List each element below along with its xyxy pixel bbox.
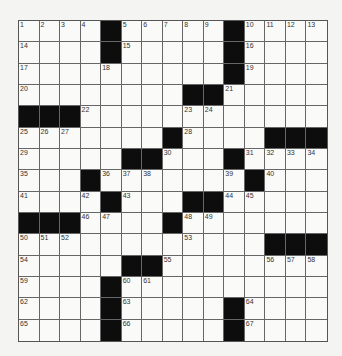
grid-cell[interactable]: 41 bbox=[19, 192, 40, 213]
grid-cell[interactable]: 12 bbox=[286, 21, 307, 42]
grid-cell[interactable] bbox=[245, 213, 266, 234]
grid-cell[interactable]: 21 bbox=[224, 85, 245, 106]
grid-cell[interactable]: 5 bbox=[122, 21, 143, 42]
grid-cell[interactable]: 47 bbox=[101, 213, 122, 234]
grid-cell[interactable] bbox=[183, 320, 204, 341]
grid-cell[interactable] bbox=[245, 256, 266, 277]
grid-cell[interactable]: 43 bbox=[122, 192, 143, 213]
grid-cell[interactable]: 23 bbox=[183, 106, 204, 127]
grid-cell[interactable] bbox=[142, 128, 163, 149]
grid-cell[interactable]: 51 bbox=[40, 234, 61, 255]
grid-cell[interactable]: 45 bbox=[245, 192, 266, 213]
grid-cell[interactable]: 1 bbox=[19, 21, 40, 42]
grid-cell[interactable] bbox=[306, 106, 327, 127]
grid-cell[interactable] bbox=[224, 213, 245, 234]
grid-cell[interactable]: 37 bbox=[122, 170, 143, 191]
grid-cell[interactable] bbox=[40, 277, 61, 298]
grid-cell[interactable]: 29 bbox=[19, 149, 40, 170]
grid-cell[interactable] bbox=[40, 149, 61, 170]
grid-cell[interactable] bbox=[40, 320, 61, 341]
grid-cell[interactable] bbox=[101, 106, 122, 127]
grid-cell[interactable] bbox=[265, 213, 286, 234]
grid-cell[interactable] bbox=[286, 42, 307, 63]
grid-cell[interactable] bbox=[306, 277, 327, 298]
grid-cell[interactable] bbox=[40, 64, 61, 85]
grid-cell[interactable]: 31 bbox=[245, 149, 266, 170]
grid-cell[interactable]: 7 bbox=[163, 21, 184, 42]
grid-cell[interactable] bbox=[245, 85, 266, 106]
grid-cell[interactable] bbox=[81, 277, 102, 298]
grid-cell[interactable]: 4 bbox=[81, 21, 102, 42]
grid-cell[interactable]: 6 bbox=[142, 21, 163, 42]
grid-cell[interactable] bbox=[204, 42, 225, 63]
grid-cell[interactable] bbox=[40, 192, 61, 213]
grid-cell[interactable] bbox=[163, 42, 184, 63]
grid-cell[interactable] bbox=[183, 149, 204, 170]
grid-cell[interactable] bbox=[163, 320, 184, 341]
grid-cell[interactable] bbox=[286, 320, 307, 341]
grid-cell[interactable] bbox=[81, 64, 102, 85]
grid-cell[interactable]: 28 bbox=[183, 128, 204, 149]
grid-cell[interactable] bbox=[81, 149, 102, 170]
grid-cell[interactable] bbox=[183, 64, 204, 85]
grid-cell[interactable] bbox=[224, 277, 245, 298]
grid-cell[interactable]: 27 bbox=[60, 128, 81, 149]
grid-cell[interactable] bbox=[265, 64, 286, 85]
grid-cell[interactable]: 36 bbox=[101, 170, 122, 191]
grid-cell[interactable] bbox=[60, 320, 81, 341]
grid-cell[interactable]: 58 bbox=[306, 256, 327, 277]
grid-cell[interactable]: 10 bbox=[245, 21, 266, 42]
grid-cell[interactable] bbox=[81, 128, 102, 149]
grid-cell[interactable] bbox=[60, 64, 81, 85]
grid-cell[interactable] bbox=[60, 298, 81, 319]
grid-cell[interactable]: 59 bbox=[19, 277, 40, 298]
grid-cell[interactable]: 44 bbox=[224, 192, 245, 213]
grid-cell[interactable] bbox=[183, 298, 204, 319]
grid-cell[interactable] bbox=[286, 106, 307, 127]
grid-cell[interactable] bbox=[163, 234, 184, 255]
grid-cell[interactable]: 20 bbox=[19, 85, 40, 106]
grid-cell[interactable] bbox=[101, 234, 122, 255]
grid-cell[interactable] bbox=[81, 85, 102, 106]
grid-cell[interactable] bbox=[163, 277, 184, 298]
grid-cell[interactable] bbox=[101, 128, 122, 149]
grid-cell[interactable] bbox=[40, 85, 61, 106]
grid-cell[interactable]: 57 bbox=[286, 256, 307, 277]
grid-cell[interactable]: 35 bbox=[19, 170, 40, 191]
grid-cell[interactable] bbox=[306, 192, 327, 213]
grid-cell[interactable] bbox=[81, 234, 102, 255]
grid-cell[interactable]: 14 bbox=[19, 42, 40, 63]
grid-cell[interactable]: 18 bbox=[101, 64, 122, 85]
grid-cell[interactable] bbox=[204, 128, 225, 149]
grid-cell[interactable] bbox=[163, 192, 184, 213]
grid-cell[interactable] bbox=[224, 106, 245, 127]
grid-cell[interactable]: 42 bbox=[81, 192, 102, 213]
grid-cell[interactable]: 22 bbox=[81, 106, 102, 127]
grid-cell[interactable] bbox=[204, 256, 225, 277]
grid-cell[interactable]: 25 bbox=[19, 128, 40, 149]
grid-cell[interactable] bbox=[60, 192, 81, 213]
grid-cell[interactable] bbox=[142, 42, 163, 63]
grid-cell[interactable]: 61 bbox=[142, 277, 163, 298]
grid-cell[interactable] bbox=[265, 106, 286, 127]
grid-cell[interactable] bbox=[306, 320, 327, 341]
grid-cell[interactable] bbox=[122, 213, 143, 234]
grid-cell[interactable] bbox=[306, 170, 327, 191]
grid-cell[interactable]: 48 bbox=[183, 213, 204, 234]
grid-cell[interactable]: 63 bbox=[122, 298, 143, 319]
grid-cell[interactable]: 11 bbox=[265, 21, 286, 42]
grid-cell[interactable] bbox=[163, 170, 184, 191]
grid-cell[interactable] bbox=[101, 85, 122, 106]
grid-cell[interactable] bbox=[204, 149, 225, 170]
grid-cell[interactable]: 46 bbox=[81, 213, 102, 234]
grid-cell[interactable] bbox=[204, 320, 225, 341]
grid-cell[interactable] bbox=[183, 42, 204, 63]
grid-cell[interactable] bbox=[40, 256, 61, 277]
grid-cell[interactable] bbox=[40, 298, 61, 319]
grid-cell[interactable] bbox=[204, 170, 225, 191]
grid-cell[interactable] bbox=[183, 170, 204, 191]
grid-cell[interactable]: 55 bbox=[163, 256, 184, 277]
grid-cell[interactable]: 17 bbox=[19, 64, 40, 85]
grid-cell[interactable] bbox=[122, 64, 143, 85]
grid-cell[interactable] bbox=[286, 64, 307, 85]
